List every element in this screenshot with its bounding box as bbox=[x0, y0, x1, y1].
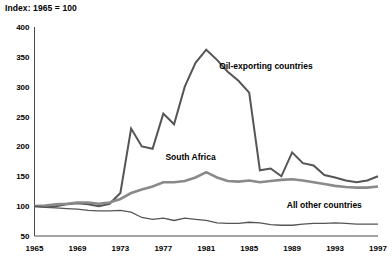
x-axis-tick-label: 1997 bbox=[369, 244, 387, 253]
series-label-2: All other countries bbox=[287, 200, 362, 210]
x-axis-tick-label: 1993 bbox=[326, 244, 344, 253]
y-axis-tick-label: 400 bbox=[16, 23, 30, 32]
y-axis-tick-label: 300 bbox=[16, 83, 30, 92]
y-axis-tick-label: 150 bbox=[16, 172, 30, 181]
y-axis-tick-label: 50 bbox=[21, 232, 30, 241]
y-axis-tick-label: 250 bbox=[16, 113, 30, 122]
series-label-1: South Africa bbox=[165, 152, 215, 162]
x-axis-tick-label: 1989 bbox=[283, 244, 301, 253]
chart-container: Index: 1965 = 100 5010015020025030035040… bbox=[0, 0, 392, 261]
y-axis-tick-label: 350 bbox=[16, 53, 30, 62]
x-axis-tick-label: 1965 bbox=[26, 244, 44, 253]
x-axis-tick-label: 1969 bbox=[69, 244, 87, 253]
x-axis-tick-label: 1977 bbox=[154, 244, 172, 253]
x-axis-tick-label: 1973 bbox=[111, 244, 129, 253]
y-axis-tick-label: 100 bbox=[16, 202, 30, 211]
line-chart-canvas: 5010015020025030035040019651969197319771… bbox=[0, 0, 392, 261]
y-axis-tick-label: 200 bbox=[16, 142, 30, 151]
x-axis-tick-label: 1985 bbox=[240, 244, 258, 253]
series-label-0: Oil-exporting countries bbox=[219, 61, 313, 71]
x-axis-tick-label: 1981 bbox=[197, 244, 215, 253]
